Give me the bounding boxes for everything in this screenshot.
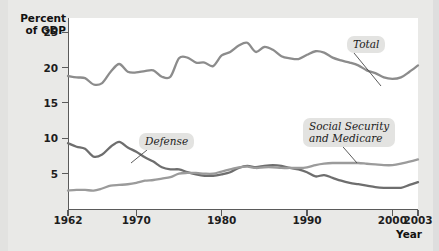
leader-total xyxy=(354,53,381,86)
series-line-1 xyxy=(68,142,418,188)
figure-container: Percent of GDP Year 510152025 1962197019… xyxy=(0,0,439,251)
callout-defense: Defense xyxy=(139,133,194,150)
callout-total: Total xyxy=(347,36,385,53)
callout-social-security: Social Security and Medicare xyxy=(303,118,395,147)
